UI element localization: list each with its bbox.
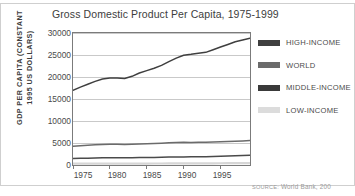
x-tickmark	[109, 166, 110, 169]
legend-label-high-income: HIGH-INCOME	[286, 38, 341, 47]
series-line-middle-income	[73, 155, 250, 158]
legend-swatch-high-income	[258, 40, 280, 46]
plot-area	[72, 32, 251, 166]
legend-label-middle-income: MIDDLE-INCOME	[286, 83, 351, 92]
legend-swatch-world	[258, 62, 280, 68]
x-tickmark	[146, 166, 147, 169]
legend-item-world[interactable]: WORLD	[258, 61, 354, 70]
plot-svg	[73, 33, 250, 165]
x-tick-1990: 1990	[178, 170, 197, 180]
legend-label-low-income: LOW-INCOME	[286, 106, 339, 115]
series-line-high-income	[73, 38, 250, 90]
y-tick-0: 0	[66, 160, 71, 170]
y-axis-title: GDP PER CAPITA (CONSTANT 1995 US DOLLARS…	[15, 0, 34, 144]
x-tickmark	[183, 166, 184, 169]
y-tick-30000: 30000	[48, 28, 71, 38]
legend-item-low-income[interactable]: LOW-INCOME	[258, 106, 354, 115]
chart-legend: HIGH-INCOME WORLD MIDDLE-INCOME LOW-INCO…	[258, 38, 354, 128]
legend-swatch-low-income	[258, 107, 280, 113]
y-axis-title-line1: GDP PER CAPITA (CONSTANT	[15, 10, 24, 125]
series-line-low-income	[73, 163, 250, 164]
y-axis-title-line2: 1995 US DOLLARS)	[24, 30, 33, 104]
legend-item-middle-income[interactable]: MIDDLE-INCOME	[258, 83, 354, 92]
y-tick-15000: 15000	[48, 94, 71, 104]
x-tickmark	[73, 166, 74, 169]
x-tick-1975: 1975	[74, 170, 93, 180]
y-tick-25000: 25000	[48, 50, 71, 60]
chart-title: Gross Domestic Product Per Capita, 1975-…	[52, 8, 262, 20]
x-tick-1995: 1995	[213, 170, 232, 180]
legend-label-world: WORLD	[286, 61, 316, 70]
x-tick-1985: 1985	[143, 170, 162, 180]
legend-swatch-middle-income	[258, 85, 280, 91]
chart-figure: Gross Domestic Product Per Capita, 1975-…	[0, 0, 355, 196]
source-note: source: World Bank, 200	[252, 183, 331, 190]
legend-item-high-income[interactable]: HIGH-INCOME	[258, 38, 354, 47]
source-text: World Bank, 200	[281, 183, 331, 190]
y-tick-5000: 5000	[52, 138, 71, 148]
x-tick-1980: 1980	[108, 170, 127, 180]
y-tick-20000: 20000	[48, 72, 71, 82]
x-tickmark	[220, 166, 221, 169]
y-tick-10000: 10000	[48, 116, 71, 126]
source-prefix: source:	[252, 184, 279, 190]
